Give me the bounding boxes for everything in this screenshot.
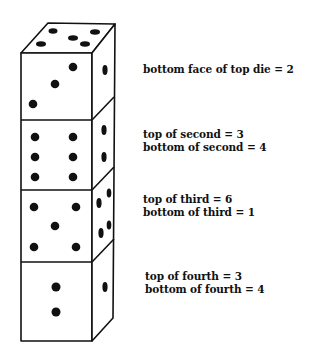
- label-die3-line2: bottom of third = 1: [143, 206, 255, 219]
- label-die4: top of fourth = 3 bottom of fourth = 4: [145, 270, 265, 296]
- label-die4-line2: bottom of fourth = 4: [145, 283, 265, 296]
- label-die2: top of second = 3 bottom of second = 4: [143, 128, 266, 154]
- dice-stack-illustration: [0, 0, 320, 358]
- label-die4-line1: top of fourth = 3: [145, 270, 265, 283]
- label-die1: bottom face of top die = 2: [143, 63, 294, 76]
- front-column: [21, 53, 92, 341]
- label-die2-line1: top of second = 3: [143, 128, 266, 141]
- label-die3: top of third = 6 bottom of third = 1: [143, 193, 255, 219]
- label-die2-line2: bottom of second = 4: [143, 141, 266, 154]
- label-die1-line1: bottom face of top die = 2: [143, 63, 294, 76]
- label-die3-line1: top of third = 6: [143, 193, 255, 206]
